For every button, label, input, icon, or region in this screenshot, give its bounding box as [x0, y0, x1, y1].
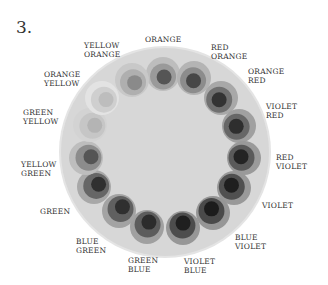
inner-dot — [87, 118, 102, 133]
inner-dot — [91, 177, 106, 192]
label-green-blue: GREEN BLUE — [128, 256, 158, 274]
label-orange: ORANGE — [145, 35, 181, 44]
label-blue-green: BLUE GREEN — [76, 237, 106, 255]
inner-dot — [229, 119, 244, 134]
segment-blue-green — [102, 194, 136, 228]
inner-dot — [127, 75, 142, 90]
label-green: GREEN — [40, 207, 70, 216]
inner-dot — [157, 69, 172, 84]
segment-blue-violet — [196, 196, 230, 230]
segment-violet-blue — [166, 211, 200, 245]
segment-green — [77, 170, 111, 204]
label-orange-red: ORANGE RED — [248, 67, 284, 85]
segment-red-violet — [227, 141, 261, 175]
label-yellow-orange: YELLOW ORANGE — [84, 41, 120, 59]
label-orange-yellow: ORANGE YELLOW — [44, 70, 80, 88]
label-yellow-green: YELLOW GREEN — [21, 160, 56, 178]
inner-dot — [234, 149, 249, 164]
label-red-violet: RED VIOLET — [276, 153, 307, 171]
inner-dot — [224, 178, 239, 193]
inner-dot — [99, 92, 114, 107]
segment-yellow-green — [69, 141, 103, 175]
label-violet-red: VIOLET RED — [266, 102, 297, 120]
segment-orange-red — [204, 81, 238, 115]
segment-red-orange — [177, 61, 211, 95]
segment-violet-red — [222, 109, 256, 143]
label-green-yellow: GREEN YELLOW — [23, 108, 58, 126]
inner-dot — [115, 199, 130, 214]
label-red-orange: RED ORANGE — [211, 43, 247, 61]
label-blue-violet: BLUE VIOLET — [235, 233, 266, 251]
inner-dot — [204, 201, 219, 216]
label-violet-blue: VIOLET BLUE — [184, 257, 215, 275]
segment-orange-yellow — [85, 81, 119, 115]
segment-yellow-orange — [115, 63, 149, 97]
inner-dot — [176, 216, 191, 231]
inner-dot — [212, 92, 227, 107]
label-violet: VIOLET — [262, 201, 293, 210]
inner-dot — [186, 73, 201, 88]
inner-dot — [83, 149, 98, 164]
segment-orange — [146, 57, 180, 91]
inner-dot — [141, 215, 156, 230]
